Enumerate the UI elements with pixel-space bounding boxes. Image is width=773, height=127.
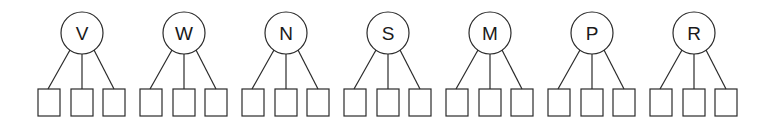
group-m: M [446, 12, 533, 116]
child-box [205, 89, 227, 116]
child-box [140, 89, 162, 116]
child-box [446, 89, 468, 116]
child-box [683, 89, 705, 116]
child-box [715, 89, 737, 116]
child-box [650, 89, 672, 116]
node-label: W [175, 23, 193, 44]
child-box [173, 89, 195, 116]
group-w: W [140, 12, 227, 116]
child-box [511, 89, 533, 116]
child-box [613, 89, 635, 116]
child-box [242, 89, 264, 116]
child-box [409, 89, 431, 116]
child-box [377, 89, 399, 116]
group-s: S [344, 12, 431, 116]
node-label: P [586, 23, 599, 44]
node-label: N [279, 23, 293, 44]
group-r: R [650, 12, 737, 116]
node-label: R [687, 23, 701, 44]
tree-diagram: V W N S M [0, 0, 773, 127]
group-v: V [38, 12, 125, 116]
node-label: M [482, 23, 498, 44]
group-n: N [242, 12, 329, 116]
child-box [548, 89, 570, 116]
node-label: S [382, 23, 395, 44]
child-box [38, 89, 60, 116]
child-box [103, 89, 125, 116]
child-box [581, 89, 603, 116]
node-label: V [76, 23, 89, 44]
child-box [479, 89, 501, 116]
group-p: P [548, 12, 635, 116]
child-box [307, 89, 329, 116]
child-box [344, 89, 366, 116]
child-box [275, 89, 297, 116]
child-box [71, 89, 93, 116]
